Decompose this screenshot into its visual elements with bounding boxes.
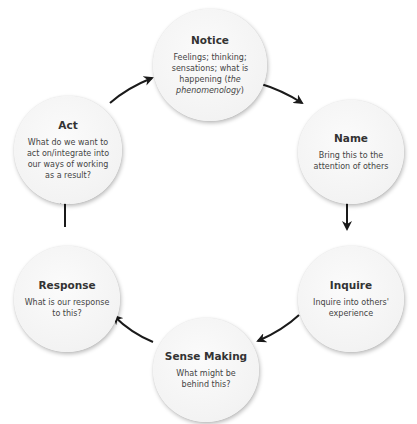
node-description: Bring this to the attention of others [308, 150, 394, 172]
node-act: Act What do we want to act on/integrate … [14, 96, 122, 204]
node-description: Inquire into others' experience [308, 297, 394, 319]
node-title: Act [58, 119, 77, 131]
node-description: What is our response to this? [24, 297, 110, 319]
node-title: Notice [191, 34, 229, 46]
arrow-sense-to-response [114, 316, 153, 342]
node-inquire: Inquire Inquire into others' experience [298, 246, 404, 352]
node-name: Name Bring this to the attention of othe… [298, 100, 404, 204]
node-sense-making: Sense Making What might be behind this? [153, 318, 259, 422]
node-title: Response [38, 279, 95, 291]
node-title: Name [334, 132, 368, 144]
node-notice: Notice Feelings; thinking; sensations; w… [153, 9, 267, 121]
arrow-inquire-to-sense [258, 315, 299, 341]
arrow-act-to-notice [110, 78, 152, 103]
node-description: What might be behind this? [163, 368, 249, 390]
node-description: What do we want to act on/integrate into… [24, 137, 112, 181]
node-response: Response What is our response to this? [14, 246, 120, 352]
node-title: Sense Making [165, 350, 247, 362]
node-title: Inquire [330, 279, 372, 291]
arrow-notice-to-name [258, 83, 302, 103]
node-description: Feelings; thinking; sensations; what is … [163, 52, 257, 96]
